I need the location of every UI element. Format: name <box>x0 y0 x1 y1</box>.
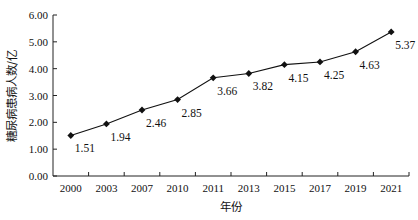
data-label: 1.94 <box>110 131 130 143</box>
data-label: 3.66 <box>217 85 237 97</box>
data-label: 4.63 <box>360 59 380 71</box>
x-axis: 2000200320072010201120132015201720192021 <box>53 172 409 194</box>
diamond-marker-icon <box>67 132 74 139</box>
diamond-marker-icon <box>139 107 146 114</box>
data-label: 5.37 <box>395 39 415 51</box>
diamond-marker-icon <box>317 59 324 66</box>
y-tick-label: 6.00 <box>29 9 49 21</box>
line-chart: 0.001.002.003.004.005.006.00 20002003200… <box>0 0 418 220</box>
y-axis: 0.001.002.003.004.005.006.00 <box>29 9 57 182</box>
x-tick-label: 2003 <box>95 182 118 194</box>
diamond-marker-icon <box>245 70 252 77</box>
y-axis-title: 糖尿病患病人数/亿 <box>5 50 19 142</box>
y-tick-label: 3.00 <box>29 90 49 102</box>
x-tick-label: 2017 <box>309 182 332 194</box>
diamond-marker-icon <box>103 121 110 128</box>
series-line <box>71 32 391 136</box>
y-tick-label: 0.00 <box>29 170 49 182</box>
diamond-marker-icon <box>174 96 181 103</box>
y-tick-label: 5.00 <box>29 36 49 48</box>
data-series: 1.511.942.462.853.663.824.154.254.635.37 <box>67 29 415 155</box>
x-tick-label: 2000 <box>60 182 83 194</box>
x-tick-label: 2015 <box>273 182 296 194</box>
data-label: 1.51 <box>75 142 95 154</box>
data-label: 4.15 <box>288 72 308 84</box>
x-tick-label: 2011 <box>202 182 224 194</box>
data-label: 2.85 <box>182 107 202 119</box>
diamond-marker-icon <box>210 74 217 81</box>
data-label: 3.82 <box>253 80 273 92</box>
y-tick-label: 1.00 <box>29 143 49 155</box>
y-tick-label: 4.00 <box>29 63 49 75</box>
x-tick-label: 2021 <box>380 182 402 194</box>
data-label: 2.46 <box>146 117 166 129</box>
x-tick-label: 2019 <box>345 182 368 194</box>
diamond-marker-icon <box>388 29 395 36</box>
x-tick-label: 2013 <box>238 182 261 194</box>
diamond-marker-icon <box>352 48 359 55</box>
diamond-marker-icon <box>281 61 288 68</box>
y-tick-label: 2.00 <box>29 116 49 128</box>
data-label: 4.25 <box>324 69 344 81</box>
x-axis-title: 年份 <box>220 200 243 214</box>
x-tick-label: 2010 <box>167 182 190 194</box>
x-tick-label: 2007 <box>131 182 154 194</box>
